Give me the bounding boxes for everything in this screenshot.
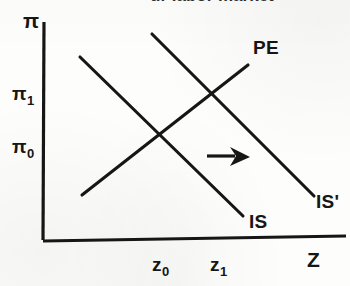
- y-axis: [43, 22, 44, 240]
- x-tick-z1-sub: 1: [220, 264, 227, 279]
- x-tick-z0: z0: [152, 255, 169, 274]
- curve-label-is: IS: [249, 212, 268, 231]
- x-axis-label: Z: [307, 249, 320, 270]
- y-axis-label: π: [23, 10, 39, 31]
- x-tick-z0-base: z: [152, 254, 162, 275]
- x-tick-z1: z1: [210, 255, 227, 274]
- y-tick-pi1-base: π: [12, 83, 27, 104]
- curve-label-pe: PE: [253, 38, 279, 57]
- curve-is-prime: [152, 34, 314, 196]
- curve-label-is-prime: IS': [316, 192, 339, 211]
- curve-is: [80, 57, 243, 216]
- y-tick-pi0-base: π: [12, 136, 27, 157]
- y-tick-pi1: π1: [12, 84, 34, 103]
- figure-canvas: ur labor market π π1 π0 z0 z1 Z PE IS: [0, 0, 350, 286]
- is-pe-diagram: [0, 0, 350, 286]
- y-tick-pi1-sub: 1: [27, 93, 34, 108]
- y-tick-pi0: π0: [12, 137, 34, 156]
- x-tick-z1-base: z: [210, 254, 220, 275]
- x-tick-z0-sub: 0: [162, 264, 169, 279]
- y-tick-pi0-sub: 0: [27, 146, 34, 161]
- x-axis: [43, 236, 346, 241]
- shift-arrow-icon: [207, 147, 250, 166]
